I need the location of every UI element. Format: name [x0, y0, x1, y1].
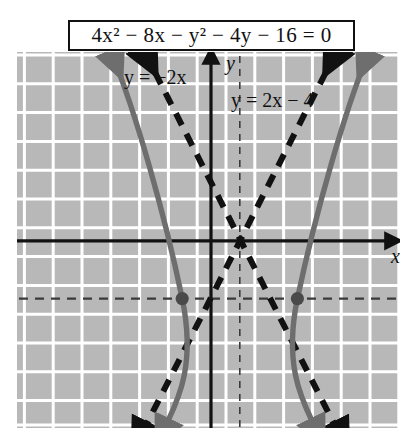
equation-box: 4x² − 8x − y² − 4y − 16 = 0: [68, 20, 355, 51]
figure-stage: 4x² − 8x − y² − 4y − 16 = 0 y x y = −2x …: [0, 0, 417, 444]
x-axis-label: x: [391, 245, 400, 268]
hyperbola-graph: [0, 0, 417, 444]
equation-text: 4x² − 8x − y² − 4y − 16 = 0: [91, 23, 331, 48]
right-asymptote-label: y = 2x − 4: [231, 89, 314, 112]
vertex-dot-left: [176, 292, 189, 305]
vertex-dot-right: [291, 292, 304, 305]
y-axis-label: y: [226, 52, 235, 75]
left-asymptote-label: y = −2x: [124, 66, 187, 89]
